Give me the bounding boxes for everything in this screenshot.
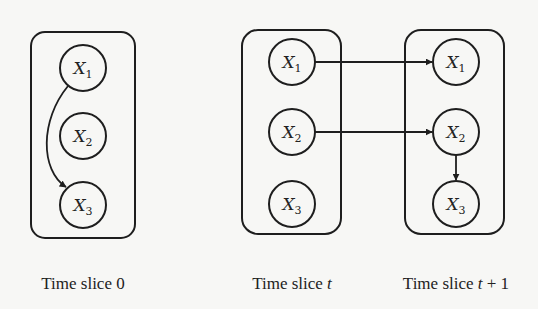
node-st-x2: X2	[269, 109, 315, 155]
node-st1-x3: X3	[433, 181, 479, 227]
node-st1-x2: X2	[433, 109, 479, 155]
slice-0-group: X1 X2 X3 Time slice 0	[31, 32, 135, 293]
node-st1-x1: X1	[433, 39, 479, 85]
slice-t-caption: Time slice t	[252, 274, 333, 293]
dbn-diagram: X1 X2 X3 Time slice 0 X1 X2 X3 Time slic…	[0, 0, 538, 309]
node-s0-x2: X2	[60, 113, 106, 159]
node-s0-x1: X1	[60, 45, 106, 91]
node-s0-x3: X3	[60, 182, 106, 228]
slice-t-group: X1 X2 X3 Time slice t	[242, 30, 341, 293]
slice-t1-caption: Time slice t + 1	[403, 274, 509, 293]
slice-0-caption: Time slice 0	[41, 274, 124, 293]
node-st-x1: X1	[269, 39, 315, 85]
node-st-x3: X3	[269, 181, 315, 227]
